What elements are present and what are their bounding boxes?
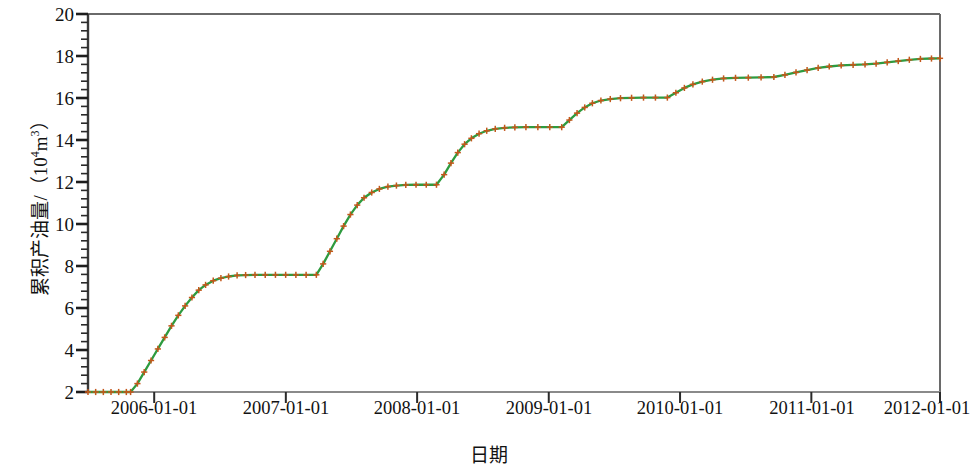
chart-figure: 累积产油量/（104m3） 20 18 16 14 12 10 8 6 4 2 … — [0, 0, 977, 466]
x-tick-label-2011: 2011-01-01 — [769, 398, 855, 419]
x-axis-tick-labels: 2006-01-01 2007-01-01 2008-01-01 2009-01… — [0, 398, 977, 428]
axis-frame — [88, 14, 940, 392]
y-axis-tick-labels: 20 18 16 14 12 10 8 6 4 2 — [28, 0, 74, 466]
y-tick-label-16: 16 — [34, 89, 74, 108]
y-tick-label-6: 6 — [34, 299, 74, 318]
x-tick-label-2009: 2009-01-01 — [506, 398, 592, 419]
x-tick-label-2006: 2006-01-01 — [111, 398, 197, 419]
y-tick-label-20: 20 — [34, 5, 74, 24]
y-tick-label-8: 8 — [34, 257, 74, 276]
data-markers-cumulative-oil — [85, 55, 943, 395]
plot-area — [0, 0, 977, 466]
y-tick-label-12: 12 — [34, 173, 74, 192]
x-tick-label-2010: 2010-01-01 — [637, 398, 723, 419]
y-tick-label-4: 4 — [34, 341, 74, 360]
data-line-cumulative-oil — [88, 58, 940, 392]
x-tick-label-2012: 2012-01-01 — [884, 398, 970, 419]
x-tick-label-2008: 2008-01-01 — [374, 398, 460, 419]
x-tick-label-2007: 2007-01-01 — [243, 398, 329, 419]
y-tick-label-14: 14 — [34, 131, 74, 150]
y-axis-major-ticks — [76, 14, 88, 392]
y-tick-label-18: 18 — [34, 47, 74, 66]
x-axis-title: 日期 — [0, 440, 977, 466]
y-tick-label-10: 10 — [34, 215, 74, 234]
